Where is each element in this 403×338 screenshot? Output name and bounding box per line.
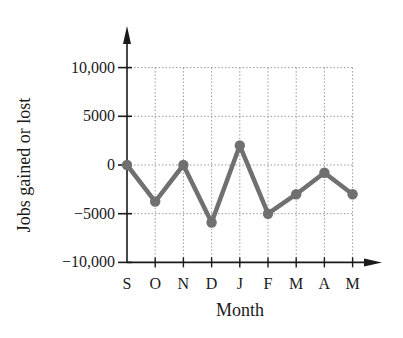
data-point-marker <box>319 168 329 178</box>
data-point-marker <box>263 209 273 219</box>
line-chart: 10,00050000−5000−10,000 SONDJFMAM Month … <box>0 0 403 338</box>
data-point-marker <box>150 196 160 206</box>
x-tick-label: M <box>289 275 303 292</box>
x-axis-title: Month <box>216 300 264 320</box>
axes <box>123 26 382 266</box>
y-tick-label: 5000 <box>83 107 115 124</box>
data-point-marker <box>235 140 245 150</box>
x-tick-label: M <box>345 275 359 292</box>
y-axis-title: Jobs gained or lost <box>14 98 34 233</box>
x-tick-label: N <box>178 275 190 292</box>
x-tick-label: F <box>264 275 273 292</box>
grid-lines <box>127 68 353 263</box>
data-point-marker <box>206 217 216 227</box>
x-tick-label: D <box>206 275 218 292</box>
data-point-marker <box>178 160 188 170</box>
y-tick-label: −5000 <box>74 205 115 222</box>
y-tick-label: 10,000 <box>71 59 115 76</box>
x-tick-label: S <box>123 275 132 292</box>
data-point-marker <box>291 189 301 199</box>
data-point-marker <box>347 189 357 199</box>
y-tick-label: −10,000 <box>62 253 115 270</box>
data-point-marker <box>122 160 132 170</box>
x-tick-label: J <box>237 275 243 292</box>
y-axis-ticks: 10,00050000−5000−10,000 <box>62 59 132 271</box>
x-tick-label: A <box>319 275 331 292</box>
x-axis-arrow-icon <box>364 258 382 266</box>
x-tick-label: O <box>149 275 161 292</box>
y-tick-label: 0 <box>107 156 115 173</box>
y-axis-arrow-icon <box>123 26 131 44</box>
